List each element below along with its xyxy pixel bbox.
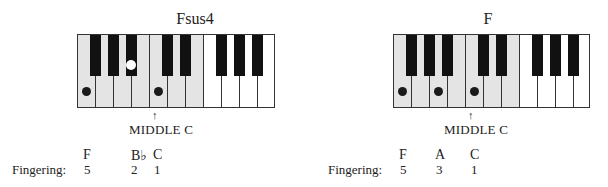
black-key-d-sharp [496, 35, 507, 76]
black-key-g-sharp2 [234, 35, 245, 76]
pressed-dot-c [154, 87, 163, 96]
pressed-dot-f [82, 87, 91, 96]
black-key-b-flat2 [568, 35, 579, 76]
piano-keyboard [77, 34, 275, 108]
middle-c-arrow: ↑ [468, 109, 474, 121]
fingering-label: Fingering: [12, 162, 66, 178]
fingering-number: 3 [436, 162, 443, 178]
black-key-g-sharp [424, 35, 435, 76]
piano-keyboard [393, 34, 590, 108]
fingering-number: 5 [84, 162, 91, 178]
chord-diagram-f: F ↑ MIDDLE C F A C Fingering: 5 3 1 [304, 0, 608, 187]
black-key-f-sharp2 [216, 35, 227, 76]
black-key-b-flat2 [252, 35, 263, 76]
pressed-dot-a [434, 87, 443, 96]
note-label: F [399, 147, 407, 163]
note-label: F [83, 147, 91, 163]
chord-diagram-fsus4: Fsus4 ↑ MIDDLE C F B♭ C Fingering: 5 2 1 [0, 0, 304, 187]
pressed-dot-b-flat [126, 60, 136, 70]
black-key-d-sharp [180, 35, 191, 76]
black-key-g-sharp2 [550, 35, 561, 76]
fingering-number: 1 [471, 162, 478, 178]
fingering-label: Fingering: [328, 162, 382, 178]
note-label: C [470, 147, 479, 163]
black-key-f-sharp [406, 35, 417, 76]
middle-c-label: MIDDLE C [129, 122, 193, 138]
pressed-dot-c [470, 87, 479, 96]
black-key-c-sharp [162, 35, 173, 76]
note-label: C [153, 147, 162, 163]
fingering-number: 2 [131, 162, 138, 178]
black-key-c-sharp [478, 35, 489, 76]
black-key-f-sharp [90, 35, 101, 76]
pressed-dot-f [398, 87, 407, 96]
middle-c-label: MIDDLE C [444, 122, 508, 138]
black-key-b-flat [442, 35, 453, 76]
fingering-number: 1 [154, 162, 161, 178]
chord-title: F [438, 10, 538, 28]
middle-c-arrow: ↑ [152, 109, 158, 121]
fingering-number: 5 [400, 162, 407, 178]
note-label: A [435, 147, 445, 163]
black-key-f-sharp2 [532, 35, 543, 76]
chord-title: Fsus4 [145, 10, 245, 28]
black-key-g-sharp [108, 35, 119, 76]
